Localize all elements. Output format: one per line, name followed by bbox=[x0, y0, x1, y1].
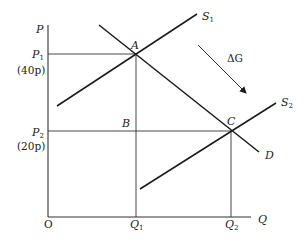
q2-label: Q2 bbox=[225, 218, 239, 232]
supply-curve-s2 bbox=[140, 103, 276, 189]
x-axis-label: Q bbox=[258, 213, 267, 226]
delta-g-label: ΔG bbox=[227, 52, 243, 64]
point-c-label: C bbox=[227, 115, 236, 128]
q1-label: Q1 bbox=[130, 218, 144, 232]
supply-demand-diagram: P Q O P1 (40p) P2 (20p) Q1 Q2 S1 S2 D A … bbox=[0, 0, 305, 243]
supply-curve-s1 bbox=[57, 14, 197, 106]
s2-label: S2 bbox=[281, 96, 293, 110]
origin-label: O bbox=[44, 218, 53, 230]
d-label: D bbox=[264, 149, 274, 162]
s1-label: S1 bbox=[202, 10, 214, 24]
p2-value-label: (20p) bbox=[17, 140, 45, 152]
p1-label: P1 bbox=[31, 48, 44, 62]
point-b-label: B bbox=[121, 117, 130, 130]
point-a-label: A bbox=[130, 39, 139, 52]
demand-curve-d bbox=[99, 25, 259, 152]
p2-label: P2 bbox=[31, 126, 44, 140]
y-axis-label: P bbox=[35, 23, 44, 36]
p1-value-label: (40p) bbox=[17, 64, 45, 76]
